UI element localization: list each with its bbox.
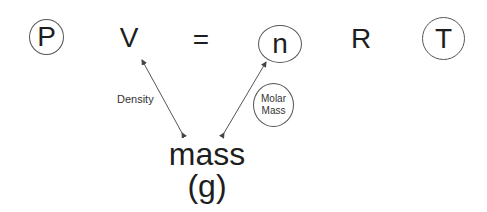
t-symbol: T (435, 25, 452, 53)
r-symbol: R (350, 25, 372, 53)
p-circle: P (29, 19, 64, 55)
equals-sign: = (190, 26, 212, 54)
t-circle: T (422, 17, 465, 60)
v-symbol: V (118, 24, 140, 52)
n-symbol: n (272, 30, 288, 58)
molar-label-line1: Molar (261, 93, 286, 105)
mass-unit-label: (g) (160, 170, 254, 202)
p-symbol: P (37, 23, 56, 51)
mass-label: mass (160, 138, 254, 170)
molar-label-line2: Mass (262, 105, 286, 117)
n-circle: n (258, 25, 302, 63)
molar-mass-circle: Molar Mass (253, 83, 294, 127)
density-label: Density (117, 93, 154, 105)
